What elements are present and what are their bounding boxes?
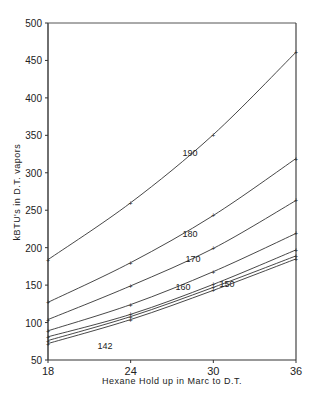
series-line (48, 159, 296, 303)
y-axis-label: kBTU's in D.T. vapors (12, 144, 22, 241)
series-line (48, 200, 296, 319)
curve-label: 150 (219, 279, 234, 289)
data-marker: + (46, 257, 50, 264)
y-tick-label: 450 (25, 55, 42, 66)
curve-label: 142 (97, 341, 112, 351)
data-marker: + (129, 260, 133, 267)
y-tick-label: 100 (25, 318, 42, 329)
x-axis-label: Hexane Hold up in Marc to D.T. (102, 376, 242, 386)
series-lines: ++++++++++++++++++++++++++++ (46, 49, 298, 347)
curve-label: 180 (182, 229, 197, 239)
data-marker: + (211, 245, 215, 252)
data-marker: + (294, 49, 298, 56)
data-marker: + (129, 317, 133, 324)
axes: 5010015020025030035040045050018243036 (25, 18, 302, 377)
curve-label: 190 (182, 148, 197, 158)
data-marker: + (211, 287, 215, 294)
data-marker: + (129, 200, 133, 207)
data-marker: + (46, 341, 50, 348)
x-tick-label: 18 (42, 365, 54, 377)
data-marker: + (294, 156, 298, 163)
data-marker: + (46, 317, 50, 324)
series-line (48, 256, 296, 341)
y-tick-label: 350 (25, 130, 42, 141)
data-marker: + (129, 302, 133, 309)
data-marker: + (46, 299, 50, 306)
series-line (48, 259, 296, 344)
data-marker: + (129, 283, 133, 290)
y-tick-label: 200 (25, 243, 42, 254)
y-tick-label: 250 (25, 205, 42, 216)
series-line (48, 233, 296, 330)
chart: 5010015020025030035040045050018243036 ++… (0, 0, 317, 404)
data-marker: + (211, 269, 215, 276)
curve-label: 170 (185, 254, 200, 264)
data-marker: + (211, 132, 215, 139)
data-marker: + (294, 256, 298, 263)
series-line (48, 250, 296, 337)
y-tick-label: 400 (25, 93, 42, 104)
y-tick-label: 50 (31, 355, 43, 366)
y-tick-label: 150 (25, 280, 42, 291)
data-marker: + (211, 212, 215, 219)
y-tick-label: 500 (25, 18, 42, 29)
x-tick-label: 36 (290, 365, 302, 377)
series-line (48, 52, 296, 259)
curve-label: 160 (175, 282, 190, 292)
data-marker: + (294, 197, 298, 204)
data-marker: + (294, 230, 298, 237)
y-tick-label: 300 (25, 168, 42, 179)
